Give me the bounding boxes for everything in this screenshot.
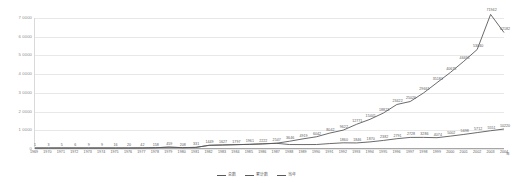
legend-item[interactable]: 当年	[277, 173, 296, 177]
y-axis-tick-label: 1 0000	[19, 128, 32, 132]
x-axis-tick-label: 1976	[124, 151, 132, 155]
data-label: 18823	[379, 109, 389, 113]
legend-swatch	[245, 175, 254, 176]
data-label: 1	[34, 144, 36, 148]
data-label: 2791	[393, 135, 401, 139]
x-axis-tick-label: 2002	[473, 151, 481, 155]
x-axis-tick-label: 1991	[325, 151, 333, 155]
data-label: 3286	[420, 134, 428, 138]
x-axis-tick-label: 1996	[392, 151, 400, 155]
data-label: 1797	[232, 141, 240, 145]
data-label: 4074	[434, 134, 442, 138]
data-label: 42	[140, 144, 144, 148]
x-axis-tick-label: 1978	[151, 151, 159, 155]
data-label: 4919	[299, 135, 307, 139]
y-axis-tick-label: 5 0000	[19, 53, 32, 57]
data-label: 10220	[500, 125, 510, 129]
data-label: 1961	[246, 141, 254, 145]
data-label: 2728	[407, 134, 415, 138]
data-label: 1870	[367, 138, 375, 142]
x-axis-tick-label: 1969	[30, 151, 38, 155]
data-label: 3	[47, 144, 49, 148]
data-label: 9	[101, 144, 103, 148]
data-label: 71942	[486, 10, 496, 14]
legend-item[interactable]: 累计数	[245, 173, 268, 177]
data-label: 23422	[392, 101, 402, 105]
x-axis-tick-label: 1984	[231, 151, 239, 155]
x-axis-tick-label: 2000	[446, 151, 454, 155]
x-axis-ticks: 1969197019711972197319741975197619771978…	[34, 151, 504, 163]
x-axis-tick-label: 1981	[191, 151, 199, 155]
data-label: 46691	[460, 57, 470, 61]
legend-label: 累计数	[256, 173, 268, 177]
x-axis-tick-label: 1992	[339, 151, 347, 155]
x-axis-unit-label: 年	[506, 151, 510, 156]
data-label: 40675	[446, 68, 456, 72]
x-axis-tick-label: 1973	[84, 151, 92, 155]
x-axis-tick-label: 1974	[97, 151, 105, 155]
data-label: 208	[180, 144, 186, 148]
data-label: 1860	[340, 139, 348, 143]
data-label: 9	[88, 144, 90, 148]
data-label: 6042	[313, 133, 321, 137]
data-label: 16	[114, 144, 118, 148]
x-axis-tick-label: 1987	[272, 151, 280, 155]
data-label: 1627	[219, 141, 227, 145]
x-axis-tick-label: 1997	[406, 151, 414, 155]
data-label: 1846	[353, 139, 361, 143]
plot-area: 01 00002 00003 00004 00005 00006 00007 0…	[34, 18, 504, 149]
data-label: 5712	[474, 129, 482, 133]
data-label: 5551	[487, 127, 495, 131]
legend-swatch	[277, 175, 286, 176]
y-axis-tick-label: 7 0000	[19, 16, 32, 20]
data-label: 25026	[406, 98, 416, 102]
data-label: 459	[166, 144, 172, 148]
y-axis-tick-label: 4 0000	[19, 72, 32, 76]
data-label: 9622	[340, 126, 348, 130]
x-axis-tick-label: 1982	[204, 151, 212, 155]
x-axis-tick-label: 1990	[312, 151, 320, 155]
data-label: 6	[74, 144, 76, 148]
x-axis-tick-label: 1983	[218, 151, 226, 155]
data-label: 20	[127, 144, 131, 148]
x-axis-tick-label: 1979	[164, 151, 172, 155]
data-label: 53040	[473, 45, 483, 49]
y-axis-tick-label: 6 0000	[19, 35, 32, 39]
data-label: 331	[193, 144, 199, 148]
x-axis-tick-label: 1989	[298, 151, 306, 155]
legend-label: 当年	[288, 173, 296, 177]
x-axis-tick-label: 1970	[43, 151, 51, 155]
data-label: 5	[61, 144, 63, 148]
x-axis-tick-label: 1980	[178, 151, 186, 155]
series-lines	[35, 18, 504, 148]
data-label: 8042	[326, 129, 334, 133]
data-label: 12771	[352, 121, 362, 125]
x-axis-tick-label: 1988	[285, 151, 293, 155]
data-label: 2222	[259, 140, 267, 144]
x-axis-tick-label: 2001	[460, 151, 468, 155]
series-line	[35, 129, 504, 148]
x-axis-tick-label: 1975	[110, 151, 118, 155]
x-axis-tick-label: 1985	[245, 151, 253, 155]
y-axis-tick-label: 3 0000	[19, 91, 32, 95]
x-axis-tick-label: 1977	[137, 151, 145, 155]
data-label: 5002	[447, 132, 455, 136]
data-label: 3646	[286, 138, 294, 142]
data-label: 158	[153, 144, 159, 148]
data-label: 15441	[366, 116, 376, 120]
legend-label: 总数	[228, 173, 236, 177]
data-label: 2382	[380, 137, 388, 141]
x-axis-tick-label: 1999	[433, 151, 441, 155]
y-axis-tick-label: 2 0000	[19, 109, 32, 113]
data-label: 2547	[273, 140, 281, 144]
x-axis-tick-label: 1995	[379, 151, 387, 155]
legend-item[interactable]: 总数	[217, 173, 236, 177]
x-axis-tick-label: 1993	[352, 151, 360, 155]
line-chart: 01 00002 00003 00004 00005 00006 00007 0…	[0, 0, 513, 193]
x-axis-tick-label: 1972	[70, 151, 78, 155]
data-label: 62182	[500, 28, 510, 32]
chart-legend: 总数累计数当年	[0, 173, 513, 177]
x-axis-tick-label: 1994	[366, 151, 374, 155]
x-axis-tick-label: 2003	[486, 151, 494, 155]
data-label: 35181	[433, 79, 443, 83]
